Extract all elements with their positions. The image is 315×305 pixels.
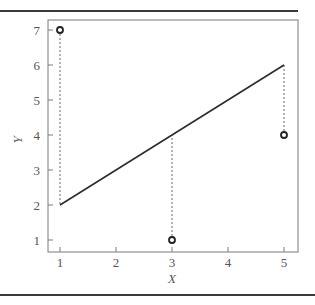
data-point-marker xyxy=(281,132,287,138)
plot-frame xyxy=(48,20,298,252)
y-tick-label: 7 xyxy=(34,23,41,38)
data-point-marker xyxy=(57,27,63,33)
x-axis-label: X xyxy=(167,271,177,286)
x-tick-label: 1 xyxy=(57,255,64,270)
x-tick-label: 5 xyxy=(281,255,288,270)
x-tick-label: 4 xyxy=(225,255,232,270)
x-tick-label: 2 xyxy=(113,255,120,270)
y-axis-label: Y xyxy=(10,135,25,144)
data-point-marker xyxy=(169,237,175,243)
y-axis-ticks: 1234567 xyxy=(34,23,54,248)
y-tick-label: 6 xyxy=(34,58,41,73)
y-tick-label: 1 xyxy=(34,233,41,248)
y-tick-label: 4 xyxy=(34,128,41,143)
scatter-chart: 1234567 12345 X Y xyxy=(0,0,315,305)
y-tick-label: 2 xyxy=(34,198,41,213)
x-tick-label: 3 xyxy=(169,255,176,270)
y-tick-label: 5 xyxy=(34,93,41,108)
x-axis-ticks: 12345 xyxy=(57,247,288,270)
y-tick-label: 3 xyxy=(34,163,41,178)
